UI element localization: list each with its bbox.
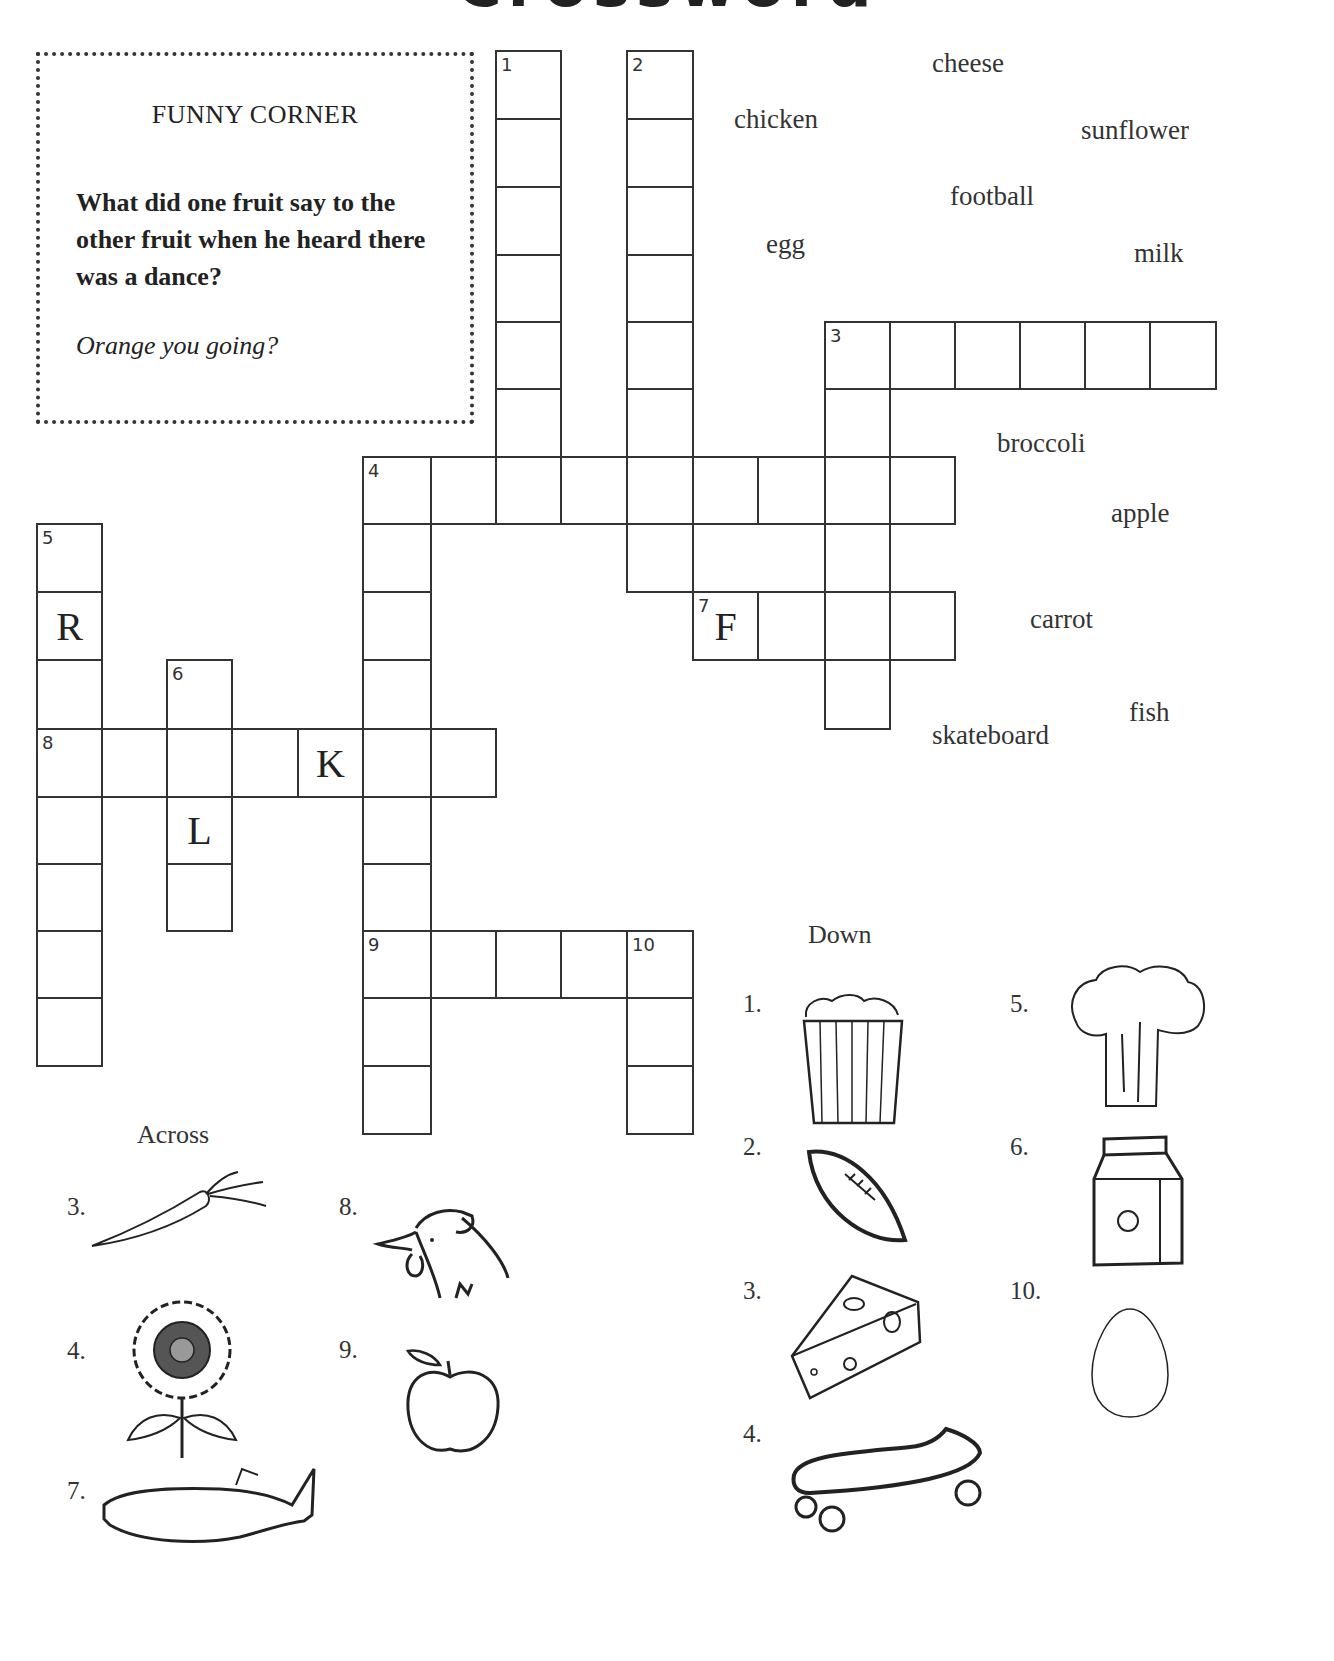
- grid-cell[interactable]: [954, 321, 1021, 390]
- egg-icon: [1090, 1305, 1175, 1420]
- clue-number: 5: [42, 527, 53, 548]
- grid-cell[interactable]: [362, 1065, 432, 1135]
- grid-cell[interactable]: [824, 591, 891, 661]
- grid-cell[interactable]: [430, 728, 497, 798]
- prefilled-letter: F: [694, 593, 757, 659]
- grid-cell[interactable]: [692, 456, 759, 525]
- word-bank-item: chicken: [734, 104, 818, 135]
- joke-question: What did one fruit say to the other frui…: [76, 184, 456, 295]
- grid-cell[interactable]: [495, 254, 562, 323]
- grid-cell[interactable]: [362, 591, 432, 661]
- fish-icon: [100, 1465, 320, 1560]
- grid-cell[interactable]: [495, 930, 562, 999]
- grid-cell[interactable]: 4: [362, 456, 432, 525]
- clue-number: 1: [501, 54, 512, 75]
- grid-cell[interactable]: [362, 796, 432, 865]
- across-clue-number: 4.: [67, 1337, 86, 1365]
- grid-cell[interactable]: [362, 659, 432, 730]
- grid-cell[interactable]: [626, 523, 694, 593]
- grid-cell[interactable]: [626, 1065, 694, 1135]
- grid-cell[interactable]: [824, 388, 891, 458]
- grid-cell[interactable]: [1084, 321, 1151, 390]
- grid-cell[interactable]: 6: [166, 659, 233, 730]
- grid-cell[interactable]: [495, 456, 562, 525]
- grid-cell[interactable]: [36, 796, 103, 865]
- grid-cell[interactable]: [36, 930, 103, 999]
- clue-number: 3: [830, 325, 841, 346]
- word-bank-item: cheese: [932, 48, 1004, 79]
- grid-cell[interactable]: [430, 930, 497, 999]
- prefilled-letter: R: [38, 593, 101, 659]
- grid-cell[interactable]: [495, 321, 562, 390]
- clue-number: 6: [172, 663, 183, 684]
- grid-cell[interactable]: [824, 523, 891, 593]
- grid-cell[interactable]: [824, 659, 891, 730]
- grid-cell[interactable]: [166, 863, 233, 932]
- clue-number: 8: [42, 732, 53, 753]
- clue-number: 4: [368, 460, 379, 481]
- grid-cell[interactable]: [36, 997, 103, 1067]
- grid-cell[interactable]: [362, 523, 432, 593]
- across-clue-number: 8.: [339, 1193, 358, 1221]
- prefilled-letter: L: [168, 798, 231, 863]
- down-clue-number: 2.: [743, 1133, 762, 1161]
- grid-cell[interactable]: [166, 728, 233, 798]
- skateboard-icon: [790, 1425, 990, 1535]
- grid-cell[interactable]: 2: [626, 50, 694, 120]
- grid-cell[interactable]: [626, 997, 694, 1067]
- grid-cell[interactable]: [626, 456, 694, 525]
- grid-cell[interactable]: [362, 863, 432, 932]
- grid-cell[interactable]: [1149, 321, 1217, 390]
- prefilled-letter: K: [299, 730, 362, 796]
- word-bank-item: skateboard: [932, 720, 1049, 751]
- grid-cell[interactable]: [560, 930, 628, 999]
- grid-cell[interactable]: [36, 863, 103, 932]
- grid-cell[interactable]: [1019, 321, 1086, 390]
- broccoli-icon: [1066, 962, 1211, 1112]
- grid-cell[interactable]: 7F: [692, 591, 759, 661]
- grid-cell[interactable]: 9: [362, 930, 432, 999]
- grid-cell[interactable]: [757, 456, 826, 525]
- carrot-icon: [88, 1170, 268, 1250]
- funny-corner-heading: FUNNY CORNER: [40, 100, 470, 130]
- across-clue-number: 9.: [339, 1336, 358, 1364]
- grid-cell[interactable]: [757, 591, 826, 661]
- grid-cell[interactable]: [101, 728, 168, 798]
- grid-cell[interactable]: [626, 186, 694, 256]
- grid-cell[interactable]: [626, 118, 694, 188]
- grid-cell[interactable]: 3: [824, 321, 891, 390]
- down-clue-number: 1.: [743, 990, 762, 1018]
- down-clue-number: 6.: [1010, 1133, 1029, 1161]
- word-bank-item: sunflower: [1081, 115, 1189, 146]
- cheese-icon: [790, 1272, 930, 1402]
- grid-cell[interactable]: [362, 997, 432, 1067]
- grid-cell[interactable]: [560, 456, 628, 525]
- grid-cell[interactable]: [824, 456, 891, 525]
- grid-cell[interactable]: [231, 728, 299, 798]
- down-clue-number: 5.: [1010, 990, 1029, 1018]
- grid-cell[interactable]: 10: [626, 930, 694, 999]
- grid-cell[interactable]: [495, 388, 562, 458]
- word-bank-item: milk: [1134, 238, 1184, 269]
- page-title: Crossword: [0, 0, 1334, 16]
- clue-number: 2: [632, 54, 643, 75]
- grid-cell[interactable]: 5: [36, 523, 103, 593]
- grid-cell[interactable]: [889, 321, 956, 390]
- grid-cell[interactable]: [626, 254, 694, 323]
- grid-cell[interactable]: 8: [36, 728, 103, 798]
- grid-cell[interactable]: [626, 321, 694, 390]
- grid-cell[interactable]: [889, 591, 956, 661]
- down-clue-number: 4.: [743, 1420, 762, 1448]
- grid-cell[interactable]: 1: [495, 50, 562, 120]
- grid-cell[interactable]: L: [166, 796, 233, 865]
- grid-cell[interactable]: [495, 186, 562, 256]
- grid-cell[interactable]: [430, 456, 497, 525]
- grid-cell[interactable]: [626, 388, 694, 458]
- grid-cell[interactable]: [889, 456, 956, 525]
- grid-cell[interactable]: [362, 728, 432, 798]
- grid-cell[interactable]: K: [297, 728, 364, 798]
- grid-cell[interactable]: [36, 659, 103, 730]
- across-clue-number: 3.: [67, 1193, 86, 1221]
- grid-cell[interactable]: [495, 118, 562, 188]
- grid-cell[interactable]: R: [36, 591, 103, 661]
